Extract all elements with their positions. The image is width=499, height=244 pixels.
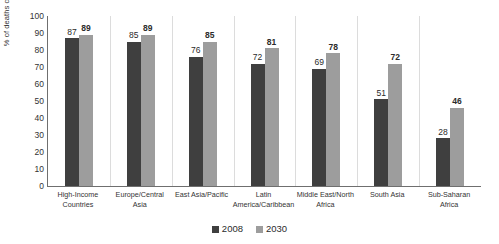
group-separator (419, 16, 420, 186)
x-axis-category-label-line: Africa (413, 200, 485, 210)
bar-value-label: 89 (137, 24, 159, 33)
bar-value-label: 46 (446, 97, 468, 106)
legend-swatch-icon (212, 226, 219, 233)
bar-2008-1 (65, 38, 79, 186)
group-separator (357, 16, 358, 186)
y-axis-tick-label: 100 (18, 12, 44, 21)
bar-2008-6 (374, 99, 388, 186)
bar-2008-3 (189, 57, 203, 186)
bar-value-label: 89 (75, 24, 97, 33)
y-axis-tick-label: 90 (18, 29, 44, 38)
x-axis-category-label-line: Asia (104, 200, 176, 210)
x-axis-category-label-line: Africa (289, 200, 361, 210)
bar-2008-5 (312, 69, 326, 186)
group-separator (295, 16, 296, 186)
bar-2030-6 (388, 64, 402, 186)
y-axis-tick-label: 80 (18, 46, 44, 55)
legend-label: 2030 (266, 224, 287, 234)
group-separator (172, 16, 173, 186)
bar-2008-7 (436, 138, 450, 186)
chart-figure: % of deaths caused by NCDs 1009080706050… (0, 0, 499, 244)
legend-label: 2008 (222, 224, 243, 234)
x-axis-category-labels: High-IncomeCountriesEurope/CentralAsiaEa… (47, 190, 480, 214)
y-axis-tick-label: 60 (18, 80, 44, 89)
y-axis-tick-label: 40 (18, 114, 44, 123)
bar-2030-3 (203, 42, 217, 187)
y-axis-title: % of deaths caused by NCDs (1, 0, 13, 56)
legend-entry-2030[interactable]: 2030 (256, 224, 287, 234)
y-axis-tick-label: 20 (18, 148, 44, 157)
bar-value-label: 81 (261, 38, 283, 47)
bar-2008-2 (127, 42, 141, 187)
y-axis-tick-label: 70 (18, 63, 44, 72)
plot-inner: 8789858976857281697851722846 (48, 16, 481, 186)
legend-entry-2008[interactable]: 2008 (212, 224, 243, 234)
y-axis-tick-labels: 1009080706050403020100 (18, 0, 44, 244)
bar-value-label: 72 (384, 53, 406, 62)
bar-2030-4 (265, 48, 279, 186)
y-axis-tick-label: 10 (18, 165, 44, 174)
bar-2030-7 (450, 108, 464, 186)
bar-2030-2 (141, 35, 155, 186)
legend-swatch-icon (256, 226, 263, 233)
x-axis-category-label: Sub-SaharanAfrica (413, 190, 485, 209)
bar-value-label: 78 (322, 43, 344, 52)
chart-legend: 20082030 (0, 222, 499, 236)
y-axis-tick-label: 30 (18, 131, 44, 140)
bar-value-label: 85 (199, 31, 221, 40)
bar-2030-5 (326, 53, 340, 186)
group-separator (110, 16, 111, 186)
y-axis-tick-label: 50 (18, 97, 44, 106)
bar-2030-1 (79, 35, 93, 186)
bar-2008-4 (251, 64, 265, 186)
group-separator (234, 16, 235, 186)
x-axis-category-label-line: Sub-Saharan (413, 190, 485, 200)
plot-area: 8789858976857281697851722846 (47, 16, 481, 187)
y-axis-tick-label: 0 (18, 182, 44, 191)
